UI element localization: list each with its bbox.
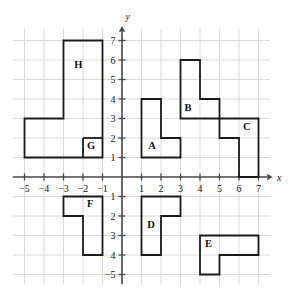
shape-label-e: E bbox=[205, 238, 212, 249]
y-tick-label: 4 bbox=[111, 94, 116, 105]
x-tick-label: −3 bbox=[58, 183, 69, 194]
shape-label-d: D bbox=[147, 219, 155, 230]
x-axis-name: x bbox=[276, 172, 282, 183]
shape-labels: ABCDEFGH bbox=[74, 59, 250, 249]
x-tick-label: 4 bbox=[198, 183, 203, 194]
y-tick-label: 3 bbox=[111, 230, 116, 241]
axes bbox=[13, 26, 273, 284]
y-axis-arrow bbox=[119, 26, 125, 32]
x-tick-label: −5 bbox=[19, 183, 30, 194]
x-tick-label: 7 bbox=[256, 183, 261, 194]
x-tick-label: −1 bbox=[97, 183, 108, 194]
x-tick-label: −2 bbox=[78, 183, 89, 194]
y-tick-label: 1 bbox=[111, 152, 116, 163]
y-tick-label: 2 bbox=[111, 211, 116, 222]
x-tick-label: 1 bbox=[139, 183, 144, 194]
shape-label-c: C bbox=[243, 121, 251, 132]
shape-label-b: B bbox=[184, 102, 191, 113]
x-tick-label: 2 bbox=[159, 183, 164, 194]
x-axis-arrow bbox=[267, 174, 272, 180]
coordinate-plane-figure: −5−4−3−2−1123456776543211234−5 ABCDEFGH … bbox=[0, 0, 293, 298]
coordinate-grid-svg: −5−4−3−2−1123456776543211234−5 ABCDEFGH … bbox=[0, 0, 293, 298]
y-tick-label: 3 bbox=[111, 113, 116, 124]
x-tick-label: −4 bbox=[39, 183, 50, 194]
y-axis-name: y bbox=[125, 11, 131, 22]
x-tick-label: 5 bbox=[217, 183, 222, 194]
y-tick-label: 7 bbox=[111, 35, 116, 46]
y-tick-label: 2 bbox=[111, 133, 116, 144]
x-tick-label: 3 bbox=[178, 183, 183, 194]
y-tick-label: 5 bbox=[111, 74, 116, 85]
y-tick-label: 6 bbox=[111, 55, 116, 66]
shape-label-g: G bbox=[87, 140, 95, 151]
x-tick-label: 6 bbox=[237, 183, 242, 194]
shape-label-f: F bbox=[87, 198, 93, 209]
y-tick-label: 1 bbox=[111, 191, 116, 202]
shape-label-a: A bbox=[148, 140, 156, 151]
y-tick-label: 4 bbox=[111, 250, 116, 261]
y-tick-label: −5 bbox=[105, 269, 116, 280]
shape-label-h: H bbox=[74, 59, 82, 70]
